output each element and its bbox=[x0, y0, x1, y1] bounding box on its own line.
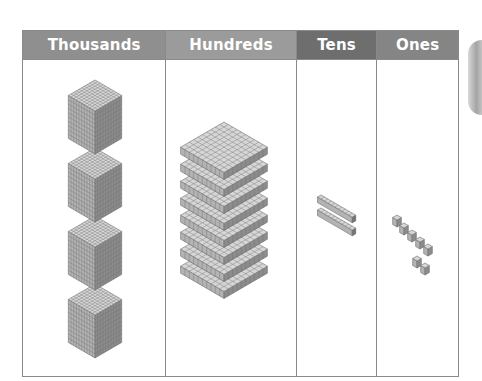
cropped-decorative-shape bbox=[468, 40, 482, 115]
hundred-flats-icon bbox=[166, 60, 297, 378]
thousands-blocks bbox=[23, 60, 165, 376]
thousand-cubes-icon bbox=[23, 60, 167, 378]
header-thousands: Thousands bbox=[23, 31, 165, 60]
tens-blocks bbox=[297, 60, 377, 376]
header-ones: Ones bbox=[377, 31, 458, 60]
unit-cubes-icon bbox=[377, 60, 458, 378]
column-tens: Tens bbox=[297, 31, 378, 376]
column-hundreds: Hundreds bbox=[166, 31, 296, 376]
ten-rods-icon bbox=[297, 60, 378, 378]
column-ones: Ones bbox=[377, 31, 458, 376]
hundreds-blocks bbox=[166, 60, 295, 376]
ones-blocks bbox=[377, 60, 458, 376]
header-tens: Tens bbox=[297, 31, 377, 60]
header-hundreds: Hundreds bbox=[166, 31, 295, 60]
column-thousands: Thousands bbox=[23, 31, 166, 376]
place-value-chart: Thousands Hundreds Tens Ones bbox=[22, 30, 459, 377]
